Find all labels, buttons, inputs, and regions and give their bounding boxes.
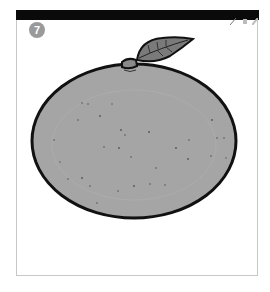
leaf [137,37,193,61]
orange-body [32,64,236,218]
orange-illustration [0,0,270,292]
